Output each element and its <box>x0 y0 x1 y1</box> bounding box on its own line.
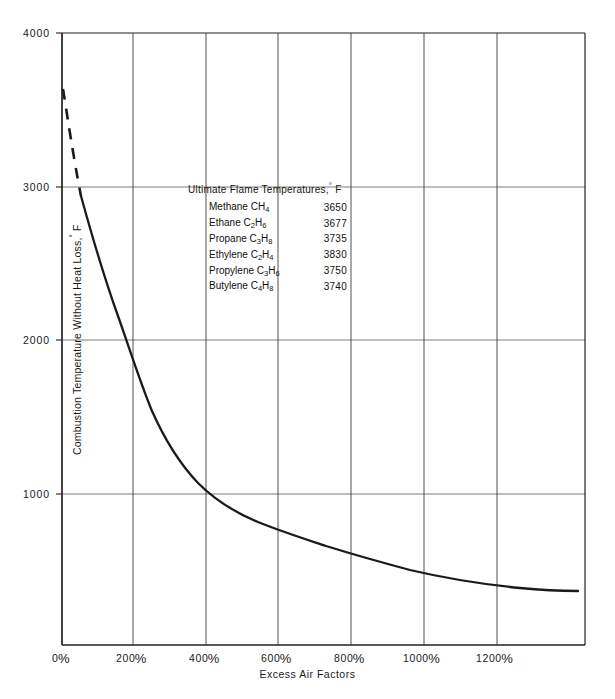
y-tick-marks <box>56 33 62 494</box>
formula-subscript-2: 6 <box>275 269 279 278</box>
formula-element-1: C <box>257 265 264 276</box>
x-tick-label-200: 200% <box>116 650 147 665</box>
legend-formula: C2H4 <box>251 249 274 260</box>
formula-subscript-1: 4 <box>258 284 262 293</box>
x-tick-800-number: 800 <box>334 652 353 664</box>
legend-row: Ethane C2H6 3677 <box>209 216 347 232</box>
formula-subscript-2: 6 <box>262 221 266 230</box>
legend-species: Methane CH4 <box>209 200 280 216</box>
x-tick-600-number: 600 <box>261 652 280 664</box>
x-tick-label-1200: 1200% <box>476 650 513 665</box>
formula-subscript-2: 8 <box>268 237 272 246</box>
formula-subscript-1: 4 <box>265 205 269 214</box>
legend-species: Ethylene C2H4 <box>209 248 280 264</box>
y-tick-label-2000: 2000 <box>0 334 50 346</box>
legend-species-name: Ethylene <box>209 249 248 260</box>
x-tick-label-600: 600% <box>261 650 292 665</box>
legend-species-name: Methane <box>209 201 248 212</box>
legend-formula: C3H8 <box>250 233 273 244</box>
y-axis-title-unit: F <box>71 224 83 231</box>
plot-frame <box>62 33 585 645</box>
legend-species-name: Ethane <box>209 217 241 228</box>
formula-subscript-2: 8 <box>269 284 273 293</box>
legend-species-name: Butylene <box>209 280 248 291</box>
legend-row: Methane CH4 3650 <box>209 200 347 216</box>
legend-value: 3677 <box>280 216 347 232</box>
x-tick-label-1000: 1000% <box>403 650 440 665</box>
x-tick-600-percent: % <box>280 651 292 666</box>
legend-value: 3740 <box>280 279 347 295</box>
formula-element-1: C <box>251 280 258 291</box>
legend-value: 3750 <box>280 264 347 280</box>
chart-figure: 4000 3000 2000 1000 0% 200% 400% 600% 80… <box>0 0 615 699</box>
x-tick-label-400: 400% <box>189 650 220 665</box>
x-tick-400-number: 400 <box>189 652 208 664</box>
x-tick-800-percent: % <box>353 651 365 666</box>
x-tick-1000-percent: % <box>428 651 440 666</box>
formula-subscript-1: 2 <box>258 253 262 262</box>
legend-row: Propane C3H8 3735 <box>209 232 347 248</box>
legend-degree-sign-icon: ° <box>329 181 332 190</box>
formula-subscript-1: 2 <box>251 221 255 230</box>
formula-element-1: CH <box>251 201 265 212</box>
curve-dashed-segment <box>63 89 81 196</box>
x-tick-1200-number: 1200 <box>476 652 502 664</box>
legend-species: Butylene C4H8 <box>209 279 280 295</box>
x-tick-400-percent: % <box>208 651 220 666</box>
formula-element-1: C <box>243 217 250 228</box>
y-tick-label-1000: 1000 <box>0 488 50 500</box>
legend-table: Methane CH4 3650 Ethane C2H6 3677 Propan… <box>209 200 347 295</box>
legend-formula: C2H6 <box>243 217 266 228</box>
formula-subscript-2: 4 <box>269 253 273 262</box>
legend-species: Ethane C2H6 <box>209 216 280 232</box>
legend-value: 3735 <box>280 232 347 248</box>
legend-row: Butylene C4H8 3740 <box>209 279 347 295</box>
x-tick-1000-number: 1000 <box>403 652 429 664</box>
legend-species: Propylene C3H6 <box>209 264 280 280</box>
x-tick-0-percent: % <box>58 651 70 666</box>
y-axis-title: Combustion Temperature Without Heat Loss… <box>69 224 83 455</box>
formula-subscript-1: 3 <box>257 237 261 246</box>
plot-canvas <box>0 0 615 699</box>
legend-species-name: Propane <box>209 233 247 244</box>
legend-formula: C3H6 <box>257 265 280 276</box>
x-tick-label-800: 800% <box>334 650 365 665</box>
legend-title-text: Ultimate Flame Temperatures, <box>188 184 329 195</box>
legend-row: Ethylene C2H4 3830 <box>209 248 347 264</box>
legend-title-unit: F <box>335 184 341 195</box>
legend-value: 3650 <box>280 200 347 216</box>
legend-species-name: Propylene <box>209 265 254 276</box>
y-tick-label-4000: 4000 <box>0 27 50 39</box>
legend-formula: CH4 <box>251 201 270 212</box>
y-tick-label-3000: 3000 <box>0 181 50 193</box>
flame-temperature-legend: Ultimate Flame Temperatures,° F Methane … <box>188 182 347 295</box>
x-tick-200-number: 200 <box>116 652 135 664</box>
legend-species: Propane C3H8 <box>209 232 280 248</box>
legend-formula: C4H8 <box>251 280 274 291</box>
legend-row: Propylene C3H6 3750 <box>209 264 347 280</box>
degree-sign-icon: ° <box>68 234 77 237</box>
x-tick-label-0: 0% <box>52 650 70 665</box>
legend-title: Ultimate Flame Temperatures,° F <box>188 182 347 195</box>
y-axis-title-text: Combustion Temperature Without Heat Loss… <box>71 237 83 455</box>
formula-element-1: C <box>251 249 258 260</box>
x-tick-1200-percent: % <box>501 651 513 666</box>
formula-subscript-1: 3 <box>264 269 268 278</box>
x-axis-title: Excess Air Factors <box>0 668 615 680</box>
legend-value: 3830 <box>280 248 347 264</box>
formula-element-1: C <box>250 233 257 244</box>
x-tick-200-percent: % <box>135 651 147 666</box>
vertical-gridlines <box>133 33 497 645</box>
